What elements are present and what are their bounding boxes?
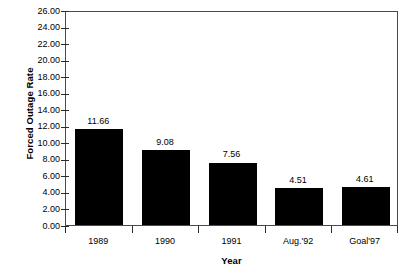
- x-axis-tick-mark: [65, 226, 66, 233]
- y-axis-tick-label: 24.00: [16, 23, 60, 32]
- y-axis-tick-mark: [61, 28, 69, 29]
- y-axis-tick-label-group: 26.0024.0022.0020.0018.0016.0014.0012.00…: [16, 11, 60, 226]
- y-axis-tick-label: 14.00: [16, 106, 60, 115]
- y-axis-tick-label: 4.00: [16, 188, 60, 197]
- bar-value-label: 9.08: [135, 137, 195, 147]
- y-axis-tick-label: 12.00: [16, 122, 60, 131]
- x-axis-title: Year: [65, 255, 398, 266]
- y-axis-tick-label: 8.00: [16, 155, 60, 164]
- y-axis-tick-mark: [61, 160, 69, 161]
- x-axis-tick-mark: [198, 226, 199, 233]
- y-axis-tick-mark: [61, 127, 69, 128]
- y-axis-tick-label: 6.00: [16, 172, 60, 181]
- y-axis-tick-mark: [61, 44, 69, 45]
- y-axis-tick-mark: [61, 110, 69, 111]
- bar-value-label: 11.66: [68, 116, 128, 126]
- x-axis-tick-mark: [331, 226, 332, 233]
- bar-value-label: 4.51: [268, 175, 328, 185]
- y-axis-tick-mark: [61, 176, 69, 177]
- bar: [275, 188, 323, 225]
- y-axis-tick-label: 20.00: [16, 56, 60, 65]
- y-axis-tick-label: 22.00: [16, 40, 60, 49]
- y-axis-tick-mark: [61, 61, 69, 62]
- x-axis-tick-mark: [265, 226, 266, 233]
- bar: [209, 163, 257, 226]
- bar-value-label: 4.61: [335, 174, 395, 184]
- bar-value-label: 7.56: [202, 149, 262, 159]
- bar: [342, 187, 390, 225]
- y-axis-tick-label: 16.00: [16, 89, 60, 98]
- x-axis-tick-mark: [132, 226, 133, 233]
- y-axis-tick-label: 10.00: [16, 139, 60, 148]
- y-axis-tick-mark: [61, 209, 69, 210]
- y-axis-tick-label: 0.00: [16, 222, 60, 231]
- y-axis-tick-mark: [61, 94, 69, 95]
- y-axis-tick-label: 26.00: [16, 7, 60, 16]
- y-axis-tick-mark: [61, 143, 69, 144]
- y-axis-tick-label: 2.00: [16, 205, 60, 214]
- bar: [75, 129, 123, 225]
- bar-chart: Forced Outage Rate 26.0024.0022.0020.001…: [0, 0, 411, 276]
- x-axis-category-label: Goal'97: [325, 236, 405, 247]
- y-axis-tick-label: 18.00: [16, 73, 60, 82]
- x-axis-tick-mark: [397, 226, 398, 233]
- y-axis-tick-mark: [61, 77, 69, 78]
- y-axis-tick-mark: [61, 193, 69, 194]
- y-axis-tick-mark: [61, 11, 69, 12]
- bar: [142, 150, 190, 225]
